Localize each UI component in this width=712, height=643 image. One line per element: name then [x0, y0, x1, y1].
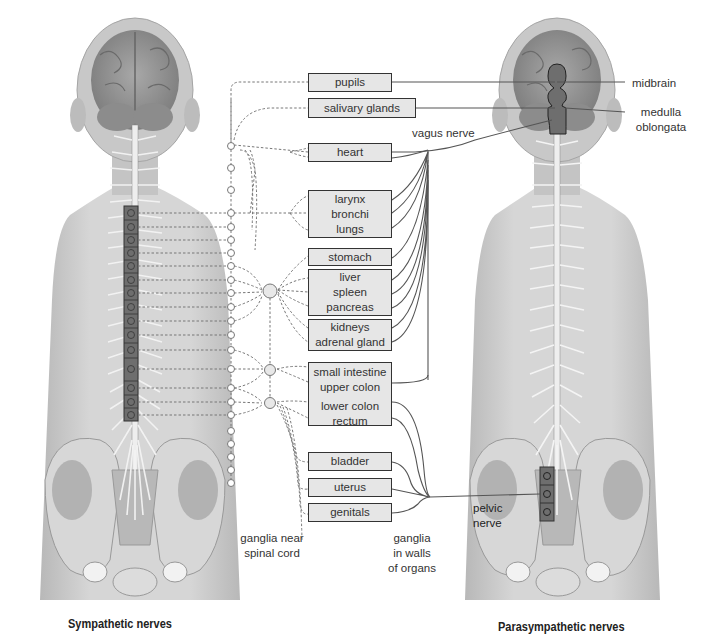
vagus-nerve-label: vagus nerve: [412, 126, 475, 141]
ganglia-near-spinal-cord-label: ganglia near spinal cord: [232, 531, 312, 561]
label-line: ganglia near: [232, 531, 312, 546]
organ-kidneys-adrenal: kidneys adrenal gland: [308, 319, 392, 351]
pelvic-nerve-label: pelvic nerve: [473, 501, 502, 531]
organ-label: bladder: [309, 454, 391, 469]
organ-stomach: stomach: [308, 248, 392, 266]
sympathetic-spinal-segments: [124, 206, 138, 421]
label-line: spinal cord: [232, 546, 312, 561]
organ-genitals: genitals: [308, 503, 392, 522]
organ-larynx-bronchi-lungs: larynx bronchi lungs: [308, 190, 392, 238]
organ-label: larynx: [309, 192, 391, 207]
organ-liver-spleen-pancreas: liver spleen pancreas: [308, 269, 392, 316]
label-line: in walls: [382, 546, 442, 561]
organ-label: small intestine: [309, 365, 391, 380]
organ-label: adrenal gland: [309, 335, 391, 350]
label-line: of organs: [382, 561, 442, 576]
organ-label: bronchi: [309, 207, 391, 222]
organ-label: lungs: [309, 222, 391, 237]
organ-label: heart: [309, 145, 391, 160]
label-line: pelvic: [473, 501, 502, 516]
organ-label: liver: [309, 270, 391, 285]
organ-intestine-colon: small intestine upper colon lower colon …: [308, 362, 392, 426]
organ-heart: heart: [308, 143, 392, 162]
organ-label: lower colon: [309, 399, 391, 414]
organ-uterus: uterus: [308, 478, 392, 497]
organ-label: rectum: [309, 414, 391, 429]
organ-bladder: bladder: [308, 452, 392, 471]
organ-label: salivary glands: [309, 101, 415, 116]
medulla-oblongata-label: medulla oblongata: [628, 105, 694, 135]
label-line: medulla: [628, 105, 694, 120]
midbrain-label: midbrain: [632, 76, 676, 91]
label-line: oblongata: [628, 120, 694, 135]
label-line: nerve: [473, 516, 502, 531]
ganglia-in-walls-label: ganglia in walls of organs: [382, 531, 442, 576]
organ-label: kidneys: [309, 320, 391, 335]
organ-label: pupils: [309, 75, 391, 90]
organ-label: upper colon: [309, 380, 391, 395]
organ-label: pancreas: [309, 300, 391, 315]
organ-label: genitals: [309, 505, 391, 520]
organ-label: stomach: [309, 250, 391, 265]
organ-label: uterus: [309, 480, 391, 495]
organ-pupils: pupils: [308, 73, 392, 92]
organ-salivary-glands: salivary glands: [308, 98, 416, 118]
sympathetic-caption: Sympathetic nerves: [68, 617, 172, 631]
organ-label: spleen: [309, 285, 391, 300]
parasympathetic-caption: Parasympathetic nerves: [498, 620, 625, 634]
left-body-figure: [40, 18, 240, 600]
autonomic-nervous-system-diagram: pupils salivary glands heart larynx bron…: [0, 0, 712, 643]
label-line: ganglia: [382, 531, 442, 546]
